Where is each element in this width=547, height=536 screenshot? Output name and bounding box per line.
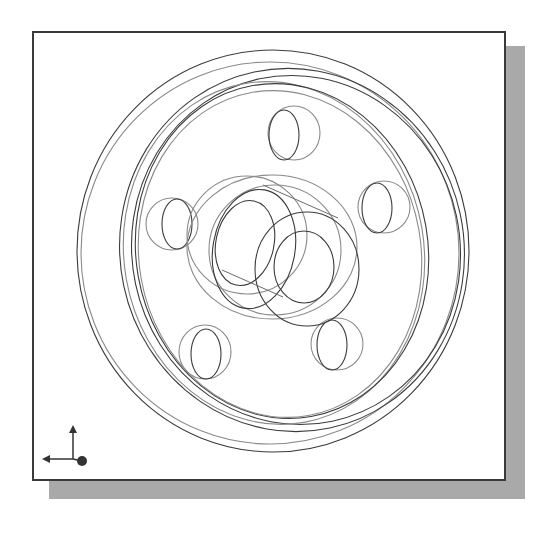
bolt-hole-bottom-left-outer bbox=[179, 325, 231, 379]
bolt-hole-bottom-right-inner bbox=[317, 320, 347, 370]
bolt-hole-bottom-left-inner bbox=[191, 329, 221, 379]
bolt-holes bbox=[146, 106, 410, 379]
bolt-hole-left-outer bbox=[146, 198, 198, 250]
bolt-hole-right-inner bbox=[362, 183, 392, 233]
wheel-rims bbox=[77, 36, 498, 464]
x-axis-arrow-icon bbox=[42, 455, 50, 463]
wireframe-drawing bbox=[0, 0, 547, 536]
hub-outer-back bbox=[187, 176, 307, 294]
y-axis-arrow-icon bbox=[69, 425, 77, 433]
inner-rim-3 bbox=[113, 68, 448, 440]
ucs-axis-icon bbox=[42, 425, 87, 466]
bolt-hole-bottom-right-outer bbox=[311, 318, 363, 370]
bolt-hole-top-inner bbox=[269, 110, 299, 160]
z-axis-dot-icon bbox=[77, 456, 87, 466]
hub-bore-front bbox=[274, 231, 334, 303]
hub-tangent-lines bbox=[222, 185, 338, 297]
wheel-hub bbox=[187, 175, 359, 326]
hub-ring bbox=[203, 183, 305, 315]
hub-bore-back bbox=[208, 195, 283, 291]
outer-rim-front bbox=[86, 36, 498, 464]
